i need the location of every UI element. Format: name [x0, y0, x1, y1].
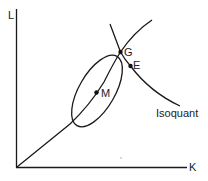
point-g — [118, 50, 122, 54]
point-m — [94, 90, 98, 94]
expansion-path — [17, 20, 152, 167]
y-axis-label: L — [8, 9, 14, 21]
stray-mark — [120, 157, 122, 159]
isoquant-label: Isoquant — [156, 107, 198, 119]
label-e: E — [133, 59, 140, 71]
label-g: G — [124, 46, 133, 58]
x-axis-label: K — [189, 161, 197, 173]
isoquant-curve — [110, 24, 180, 106]
label-m: M — [101, 87, 110, 99]
isoquant-diagram: L K G E M Isoquant — [0, 0, 208, 181]
